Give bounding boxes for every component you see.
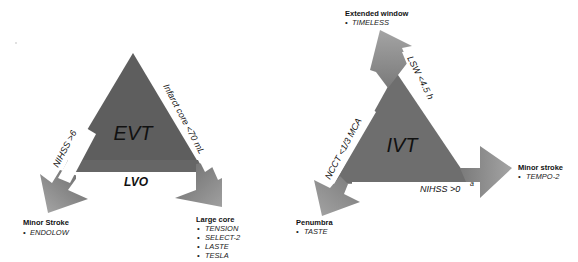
ivt-bottom-edge-superscript: a	[470, 180, 474, 187]
outcome-bullet: •	[197, 233, 200, 242]
outcome-bullet: •	[345, 18, 348, 27]
outcome-item: TESLA	[205, 251, 229, 260]
speck	[15, 42, 17, 44]
ivt-left-outcome: Penumbra • TASTE	[296, 218, 334, 236]
outcome-bullet: •	[197, 242, 200, 251]
evt-diagram: EVT LVO NIHSS >6 Infarct core <70 mL Min…	[23, 53, 241, 260]
outcome-item: TEMPO-2	[526, 172, 560, 181]
outcome-title: Minor stroke	[518, 163, 563, 172]
outcome-bullet: •	[197, 224, 200, 233]
evt-base-label: LVO	[124, 175, 149, 189]
evt-center-label: EVT	[114, 122, 155, 144]
outcome-item: SELECT-2	[205, 233, 241, 242]
outcome-title: Large core	[196, 215, 234, 224]
outcome-bullet: •	[518, 172, 521, 181]
ivt-right-outcome: Minor stroke • TEMPO-2	[518, 163, 563, 181]
ivt-diagram: IVT LSW <4.5 h NCCT <1/3 MCA NIHSS >0 a …	[296, 9, 563, 236]
ivt-bottom-edge-label: NIHSS >0	[420, 184, 460, 194]
outcome-title: Extended window	[345, 9, 409, 18]
evt-left-outcome: Minor Stroke • ENDOLOW	[23, 218, 70, 237]
outcome-item: ENDOLOW	[30, 228, 70, 237]
outcome-bullet: •	[296, 227, 299, 236]
diagram-canvas: EVT LVO NIHSS >6 Infarct core <70 mL Min…	[0, 0, 578, 262]
ivt-top-outcome: Extended window • TIMELESS	[345, 9, 409, 27]
outcome-title: Minor Stroke	[23, 218, 69, 227]
ivt-center-label: IVT	[386, 134, 419, 156]
outcome-item: LASTE	[205, 242, 230, 251]
outcome-item: TENSION	[205, 224, 239, 233]
evt-triangle-base-band	[62, 160, 204, 172]
outcome-bullet: •	[23, 228, 26, 237]
outcome-item: TASTE	[304, 227, 329, 236]
evt-right-outcome: Large core • TENSION • SELECT-2 • LASTE …	[196, 215, 241, 260]
outcome-bullet: •	[197, 251, 200, 260]
ivt-bottom-channel	[352, 182, 480, 196]
outcome-item: TIMELESS	[352, 18, 389, 27]
outcome-title: Penumbra	[296, 218, 334, 227]
